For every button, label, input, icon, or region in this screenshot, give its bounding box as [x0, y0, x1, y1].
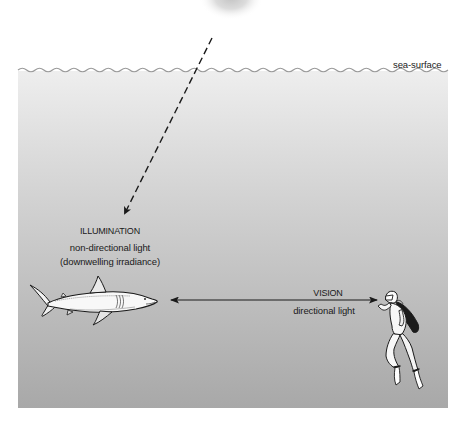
- vision-title: VISION: [313, 288, 342, 298]
- vision-subtitle: directional light: [293, 305, 355, 316]
- water-body: [18, 71, 448, 408]
- illumination-description-line2: (downwelling irradiance): [60, 256, 160, 267]
- sea-surface-label: sea-surface: [393, 59, 442, 70]
- illumination-title: ILLUMINATION: [80, 226, 140, 236]
- illumination-description-line1: non-directional light: [70, 242, 150, 253]
- sun-glow-icon: [199, 0, 263, 20]
